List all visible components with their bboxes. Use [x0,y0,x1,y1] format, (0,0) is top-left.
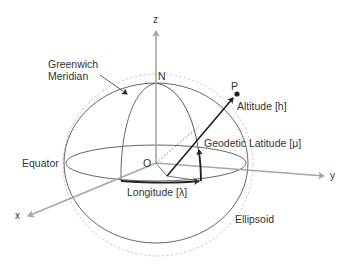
x-axis-label: x [15,210,20,222]
origin-to-equator-line [156,163,167,176]
longitude-label: Longitude [λ] [127,186,187,198]
point-p-label: P [231,80,238,92]
geodetic-latitude-label: Geodetic Latitude [μ] [204,137,301,149]
point-p-dot [234,91,239,96]
ellipsoid-label: Ellipsoid [235,213,274,225]
greenwich-label-line2: Meridian [48,70,88,82]
greenwich-label-line1: Greenwich [48,58,98,70]
dashed-radius-line [156,126,199,163]
y-axis-label: y [330,170,335,182]
origin-label: O [143,157,151,169]
equator-label: Equator [22,157,59,169]
geodetic-diagram [0,0,350,267]
z-axis-label: z [153,14,158,26]
latitude-arc [199,150,201,181]
altitude-label: Altitude [h] [237,100,287,112]
greenwich-pointer [100,75,127,94]
y-axis [156,163,324,176]
north-label: N [158,70,166,82]
